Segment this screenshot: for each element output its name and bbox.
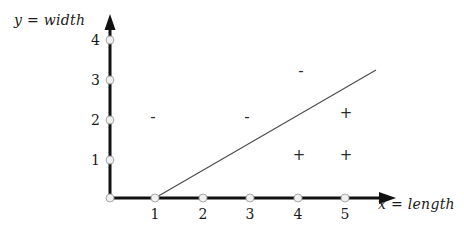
data-marker-plus-4-1: + <box>291 148 307 163</box>
x-tick-label-4: 4 <box>288 206 308 222</box>
y-tick-label-4: 4 <box>84 32 100 48</box>
scatter-plot-figure: y = width x = length 1 2 3 4 1 2 3 4 5 -… <box>0 0 464 244</box>
tick-dot-origin <box>106 194 114 202</box>
x-tick-label-3: 3 <box>240 206 260 222</box>
tick-dot-y-4 <box>106 36 114 44</box>
x-tick-label-5: 5 <box>335 206 355 222</box>
tick-dot-y-3 <box>106 76 114 84</box>
data-marker-minus-1-2: - <box>145 110 161 125</box>
tick-dot-x-2 <box>199 194 207 202</box>
x-tick-label-2: 2 <box>193 206 213 222</box>
data-marker-plus-5-1: + <box>338 148 354 163</box>
y-axis-arrowhead <box>105 14 116 30</box>
x-axis-title: x = length <box>378 196 455 212</box>
y-tick-label-1: 1 <box>84 152 100 168</box>
x-tick-label-1: 1 <box>145 206 165 222</box>
y-axis-title: y = width <box>14 12 85 28</box>
data-marker-minus-3-2: - <box>239 110 255 125</box>
tick-dot-x-1 <box>151 194 159 202</box>
tick-dot-x-3 <box>246 194 254 202</box>
tick-dot-x-5 <box>341 194 349 202</box>
tick-dot-y-2 <box>106 116 114 124</box>
tick-dot-x-4 <box>294 194 302 202</box>
data-marker-plus-5-2: + <box>338 106 354 121</box>
data-marker-minus-4-3: - <box>293 64 309 79</box>
y-tick-label-2: 2 <box>84 112 100 128</box>
tick-dot-y-1 <box>106 156 114 164</box>
y-tick-label-3: 3 <box>84 72 100 88</box>
separating-line <box>155 70 376 198</box>
